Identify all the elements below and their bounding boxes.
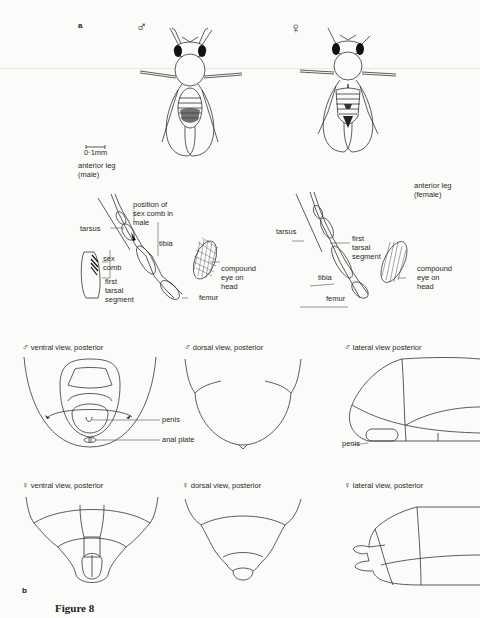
scale-bar-label: 0·1mm (84, 149, 107, 158)
label-female-first-tarsal: first tarsal segment (352, 234, 381, 261)
label-penis: penis (162, 416, 180, 425)
label-male-tibia: tibia (159, 240, 173, 249)
label-female-compound-eye: compound eye on head (417, 264, 452, 291)
female-fly-illustration (288, 24, 408, 164)
male-symbol-icon: ♂ (22, 343, 29, 352)
female-lateral-header: ♀ lateral view, posterior (344, 481, 423, 490)
panel-letter-a: a (78, 21, 82, 30)
label-male-tarsus: tarsus (80, 225, 100, 234)
label-sex-comb-position: position of sex comb in male (133, 200, 173, 227)
label-sex-comb: sex comb (103, 254, 121, 272)
male-lateral-view-illustration (340, 355, 480, 450)
male-lateral-header: ♂ lateral view posterior (344, 343, 422, 352)
female-ventral-view-illustration (22, 495, 162, 590)
male-leg-title-2: (male) (78, 171, 99, 180)
male-dorsal-header: ♂ dorsal view, posterior (184, 343, 263, 352)
label-female-tibia: tibia (318, 274, 332, 283)
male-dorsal-view-illustration (183, 355, 303, 450)
male-ventral-view-illustration (20, 355, 160, 450)
male-symbol-icon: ♂ (344, 343, 351, 352)
female-lateral-view-illustration (345, 505, 480, 590)
label-lateral-penis: penis (342, 440, 360, 449)
label-female-tarsus: tarsus (276, 228, 296, 237)
figure-caption: Figure 8 (55, 602, 94, 614)
male-symbol-icon: ♂ (184, 343, 191, 352)
label-male-first-tarsal: first tarsal segment (105, 277, 134, 304)
female-symbol-icon: ♀ (22, 481, 29, 490)
male-ventral-header: ♂ ventral view, posterior (22, 343, 103, 352)
female-symbol-icon: ♀ (344, 481, 351, 490)
panel-letter-b: b (22, 586, 27, 595)
male-fly-illustration (130, 24, 250, 164)
female-dorsal-view-illustration (183, 495, 303, 590)
label-male-compound-eye: compound eye on head (221, 264, 256, 291)
female-ventral-header: ♀ ventral view, posterior (22, 481, 103, 490)
female-dorsal-header: ♀ dorsal view, posterior (182, 481, 261, 490)
label-female-femur: femur (326, 295, 345, 304)
female-symbol-icon: ♀ (182, 481, 189, 490)
label-male-femur: femur (199, 294, 218, 303)
